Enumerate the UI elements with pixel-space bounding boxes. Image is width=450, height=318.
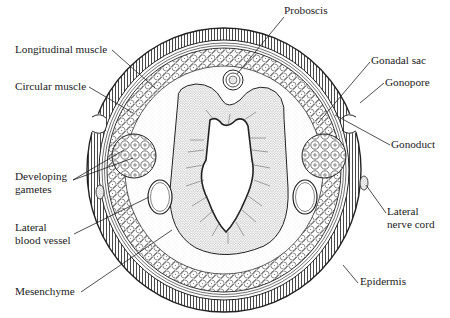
proboscis-structure (223, 70, 243, 90)
label-gonopore: Gonopore (385, 76, 430, 89)
lateral-blood-vessel-left (148, 180, 172, 214)
label-lateral-nerve-cord: Lateral nerve cord (387, 205, 435, 231)
label-gonoduct: Gonoduct (391, 138, 435, 151)
label-mesenchyme: Mesenchyme (15, 285, 75, 298)
label-proboscis: Proboscis (284, 4, 328, 17)
label-epidermis: Epidermis (360, 275, 406, 288)
intestine (170, 84, 288, 255)
label-circular-muscle: Circular muscle (15, 80, 86, 93)
label-gonadal-sac: Gonadal sac (371, 54, 426, 67)
leader-line-gonopore (360, 83, 384, 103)
lateral-blood-vessel-right (293, 180, 317, 214)
label-developing-gametes: Developing gametes (15, 170, 67, 196)
label-lateral-blood-vessel: Lateral blood vessel (15, 221, 71, 247)
nemertean-cross-section-figure: Proboscis Longitudinal muscle Circular m… (0, 0, 450, 318)
lateral-nerve-cord-left (96, 185, 104, 199)
leader-line-lateral-nerve-cord (366, 185, 386, 213)
label-longitudinal-muscle: Longitudinal muscle (15, 43, 107, 56)
leader-line-epidermis (343, 265, 358, 283)
gonadal-sac-right (302, 134, 346, 178)
gonadal-sac-left (112, 134, 156, 178)
lateral-nerve-cord-right (360, 176, 368, 190)
